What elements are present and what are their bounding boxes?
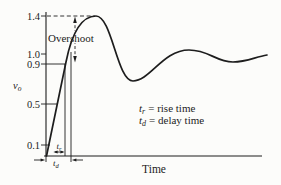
y-axis-symbol-sub: o xyxy=(18,84,22,93)
legend: tr= rise time td= delay time xyxy=(139,102,204,128)
y-axis-symbol: vo xyxy=(13,80,22,93)
rise-time-marker: tr xyxy=(53,141,64,153)
y-tick-label-0_5: 0.5 xyxy=(27,99,40,110)
y-tick-label-1_4: 1.4 xyxy=(27,11,41,22)
step-response-figure: Overshoot tr td 1.4 1.0 0.9 0.5 0.1 vo t… xyxy=(0,0,281,185)
y-tick-labels: 1.4 1.0 0.9 0.5 0.1 xyxy=(27,11,41,151)
legend-rise-sub: r xyxy=(142,107,146,116)
legend-delay-rest: = delay time xyxy=(149,114,204,126)
step-response-plot: Overshoot tr td 1.4 1.0 0.9 0.5 0.1 vo t… xyxy=(0,0,281,185)
overshoot-arrowhead-down-icon xyxy=(73,56,77,63)
legend-delay-sub: d xyxy=(142,119,147,128)
delay-time-label-sub: d xyxy=(56,162,60,169)
delay-time-arrowhead-right-icon xyxy=(41,159,46,162)
y-tick-label-0_1: 0.1 xyxy=(27,140,40,151)
y-tick-marks xyxy=(41,16,46,145)
delay-time-arrowhead-left-icon xyxy=(72,159,77,162)
rise-time-arrowhead-left-icon xyxy=(53,151,57,154)
y-tick-label-0_9: 0.9 xyxy=(27,59,40,70)
overshoot-arrowhead-up-icon xyxy=(73,17,77,24)
rise-time-label-sub: r xyxy=(59,145,62,152)
delay-time-label: td xyxy=(53,158,60,169)
rise-time-label: tr xyxy=(57,141,63,152)
legend-delay-time: td= delay time xyxy=(139,114,204,128)
delay-time-marker: td xyxy=(34,158,83,169)
legend-rise-rest: = rise time xyxy=(148,102,195,114)
x-axis-label: Time xyxy=(142,163,166,175)
